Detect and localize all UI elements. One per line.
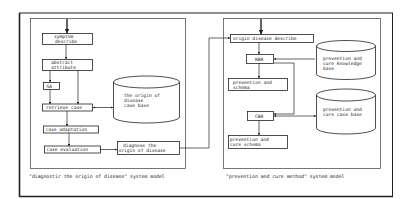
svg-text:retrieve case: retrieve case (46, 105, 82, 110)
svg-text:GA: GA (47, 84, 53, 89)
left-panel-caption: "diagnostic the origin of disease" syste… (29, 174, 165, 180)
system-model-diagram: symptom describe abstract attribute GA r… (0, 0, 409, 199)
node-prevention-and-schema: prevention and schema (229, 79, 288, 91)
svg-text:origin disease describe: origin disease describe (233, 36, 297, 41)
database-prevention-cure-knowledge-base: prevention and cure knowledge base (317, 41, 376, 80)
node-rbr: RBR (247, 55, 274, 64)
svg-text:RBR: RBR (255, 57, 264, 62)
svg-text:cure case base: cure case base (323, 112, 362, 117)
node-ga: GA (44, 83, 60, 90)
node-prevention-and-cure-schema: prevention and cure schema (229, 136, 288, 149)
database-origin-of-disease-case-base: the origin of disease case base (114, 76, 180, 123)
node-symptom-describe: symptom describe (43, 34, 93, 45)
right-panel: origin disease describe RBR prevention a… (224, 19, 381, 180)
node-retrieve-case: retrieve case (43, 104, 93, 111)
svg-text:base: base (323, 66, 334, 71)
svg-text:attribute: attribute (51, 65, 76, 70)
svg-text:describe: describe (55, 39, 77, 44)
node-case-evaluation: case evaluation (45, 146, 101, 153)
svg-text:schema: schema (233, 85, 250, 90)
left-panel: symptom describe abstract attribute GA r… (29, 19, 186, 181)
node-case-adaptation: case adaptation (44, 126, 99, 133)
node-cbr: CBR (248, 112, 274, 121)
svg-text:origin of disease: origin of disease (119, 148, 166, 153)
svg-text:cure schema: cure schema (230, 142, 261, 147)
arrow-diagnose-to-origin-describe (180, 38, 231, 148)
node-diagnose-origin-of-disease: diagnose the origin of disease (118, 142, 180, 155)
svg-text:case adaptation: case adaptation (46, 127, 88, 132)
right-panel-caption: "prevention and cure method" system mode… (226, 174, 345, 179)
svg-text:CBR: CBR (255, 114, 264, 119)
node-abstract-attribute: abstract attribute (43, 60, 93, 71)
svg-text:case base: case base (124, 103, 149, 108)
svg-text:case evaluation: case evaluation (47, 147, 89, 152)
node-origin-disease-describe: origin disease describe (231, 35, 314, 43)
database-prevention-cure-case-base: prevention and cure case base (317, 89, 376, 134)
